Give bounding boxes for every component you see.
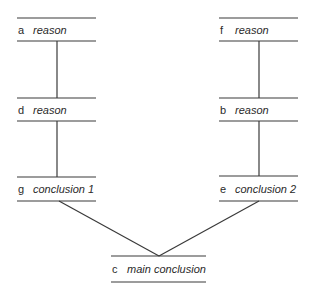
node-letter: c xyxy=(112,263,127,275)
node-d: d reason xyxy=(18,99,67,121)
node-label: reason xyxy=(33,24,67,36)
node-label: conclusion 2 xyxy=(235,183,296,195)
node-letter: f xyxy=(220,24,235,36)
node-label: reason xyxy=(235,24,269,36)
diagram-lines xyxy=(0,0,314,296)
node-letter: e xyxy=(220,183,235,195)
node-a: a reason xyxy=(18,19,67,41)
node-g: g conclusion 1 xyxy=(18,178,94,200)
node-b: b reason xyxy=(220,99,269,121)
node-label: reason xyxy=(33,104,67,116)
node-letter: g xyxy=(18,183,33,195)
node-letter: b xyxy=(220,104,235,116)
node-label: reason xyxy=(235,104,269,116)
node-label: conclusion 1 xyxy=(33,183,94,195)
node-letter: d xyxy=(18,104,33,116)
node-label: main conclusion xyxy=(127,263,206,275)
edge-e-c xyxy=(159,201,259,256)
node-f: f reason xyxy=(220,19,269,41)
node-letter: a xyxy=(18,24,33,36)
node-c: c main conclusion xyxy=(112,258,206,280)
node-e: e conclusion 2 xyxy=(220,178,296,200)
edge-g-c xyxy=(59,201,159,256)
